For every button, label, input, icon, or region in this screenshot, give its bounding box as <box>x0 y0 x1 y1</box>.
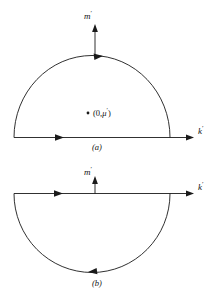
contour-figure: m′ k′ (0,μ′) (a) m′ k′ (b) <box>0 0 218 303</box>
panel-b-m-axis-arrowhead <box>92 176 98 184</box>
panel-a-graphics <box>14 24 194 141</box>
panel-a-m-axis-prime: ′ <box>91 9 93 17</box>
contour-diagram-svg <box>0 0 218 303</box>
panel-a-k-axis-arrowhead <box>186 135 194 141</box>
panel-b-semicircle-arc <box>14 194 170 273</box>
panel-a-pole-open-paren: (0, <box>93 108 102 118</box>
panel-a-pole-label: (0,μ′) <box>93 107 111 117</box>
panel-b-m-axis-prime: ′ <box>91 165 93 173</box>
panel-a-k-axis-prime: ′ <box>202 124 204 132</box>
panel-a-pole-close-paren: ) <box>108 108 111 118</box>
panel-a-caption: (a) <box>92 143 102 152</box>
panel-b-caption: (b) <box>92 279 102 288</box>
panel-b-graphics <box>14 176 194 274</box>
panel-b-k-axis-arrowhead <box>186 191 194 197</box>
panel-a-pole-dot <box>87 112 90 115</box>
panel-a-k-axis-label: k′ <box>198 125 204 136</box>
panel-b-arc-direction-arrow <box>88 268 97 274</box>
panel-b-m-axis-label: m′ <box>84 166 92 177</box>
panel-b-k-axis-prime: ′ <box>202 180 204 188</box>
panel-a-diameter-direction-arrow <box>55 134 64 140</box>
panel-a-m-axis-arrowhead <box>92 24 98 32</box>
panel-a-m-axis-label: m′ <box>84 10 92 21</box>
panel-b-k-axis-label: k′ <box>198 181 204 192</box>
panel-b-diameter-direction-arrow <box>54 190 63 196</box>
panel-a-semicircle-arc <box>14 55 170 137</box>
